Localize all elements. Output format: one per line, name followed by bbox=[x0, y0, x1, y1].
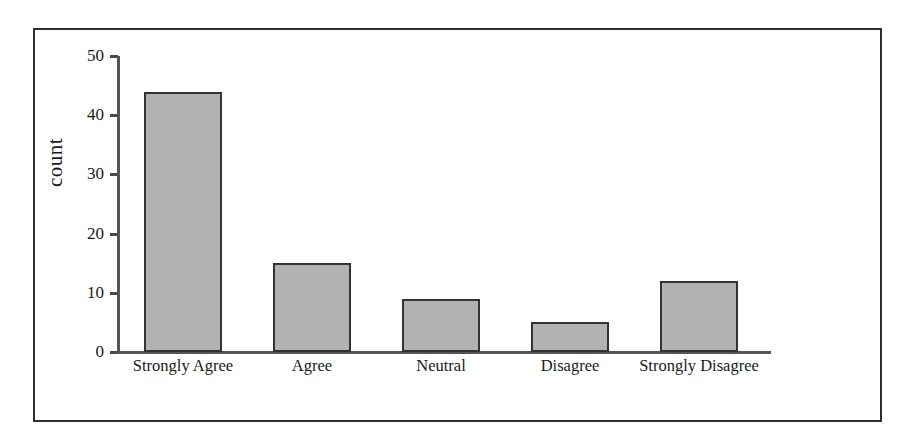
y-tick-mark bbox=[110, 173, 118, 176]
y-tick-mark bbox=[110, 292, 118, 295]
bar bbox=[531, 322, 609, 352]
y-tick-label-text: 20 bbox=[64, 225, 104, 242]
bar bbox=[144, 92, 222, 352]
bar bbox=[273, 263, 351, 352]
bar-category-label: Strongly Disagree bbox=[609, 357, 789, 375]
y-tick-label-text: 30 bbox=[64, 165, 104, 182]
bar bbox=[660, 281, 738, 352]
y-tick-label: 10 bbox=[62, 284, 104, 302]
y-axis-line bbox=[117, 56, 120, 353]
bar-chart-plot: count 01020304050 Strongly AgreeAgreeNeu… bbox=[0, 0, 913, 444]
y-tick-mark bbox=[110, 55, 118, 58]
y-tick-label-text: 10 bbox=[64, 284, 104, 301]
y-tick-label: 40 bbox=[62, 106, 104, 124]
bar bbox=[402, 299, 480, 352]
y-tick-label: 50 bbox=[62, 47, 104, 65]
y-tick-label: 20 bbox=[62, 225, 104, 243]
y-tick-label-text: 40 bbox=[64, 106, 104, 123]
y-tick-mark bbox=[110, 351, 118, 354]
y-tick-label-text: 50 bbox=[64, 47, 104, 64]
y-tick-mark bbox=[110, 114, 118, 117]
y-tick-label: 30 bbox=[62, 165, 104, 183]
y-tick-mark bbox=[110, 233, 118, 236]
